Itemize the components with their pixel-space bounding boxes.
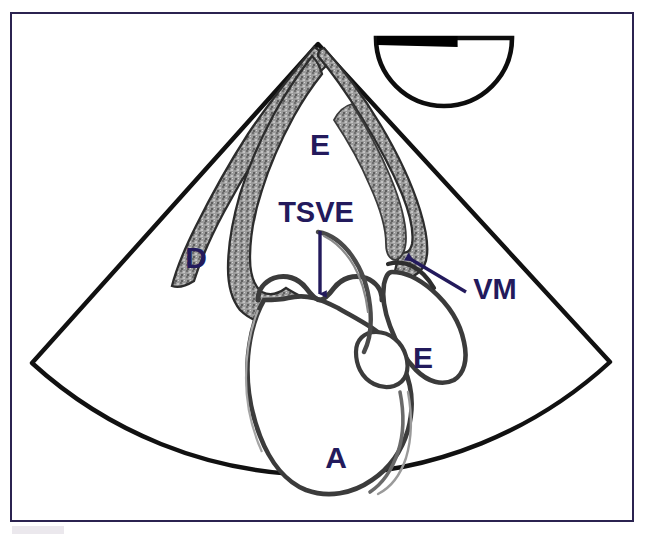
figure-root: EDTSVEVMEA	[0, 0, 645, 536]
orientation-dome-outline	[376, 38, 512, 106]
label-e-upper: E	[310, 128, 330, 161]
label-tsve: TSVE	[278, 196, 354, 228]
label-a: A	[325, 441, 347, 474]
label-e-lower: E	[413, 341, 433, 374]
probe-orientation-marker	[376, 36, 512, 106]
label-d: D	[185, 241, 207, 274]
label-vm: VM	[473, 273, 517, 305]
ultrasound-diagram: EDTSVEVMEA	[0, 0, 645, 536]
